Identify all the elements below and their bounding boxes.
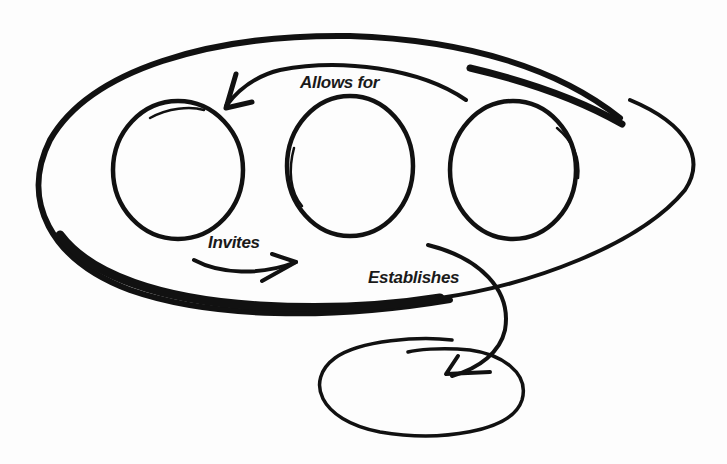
invites-arrow [194,254,296,281]
circle-3 [450,101,578,239]
circle-2 [287,96,413,236]
sketch-drawing [0,0,727,464]
establishes-label: Establishes [368,268,459,288]
allows-for-label: Allows for [300,73,379,93]
circle-1 [113,101,243,239]
diagram-canvas: Allows for Invites Establishes [0,0,727,464]
invites-label: Invites [208,233,260,253]
